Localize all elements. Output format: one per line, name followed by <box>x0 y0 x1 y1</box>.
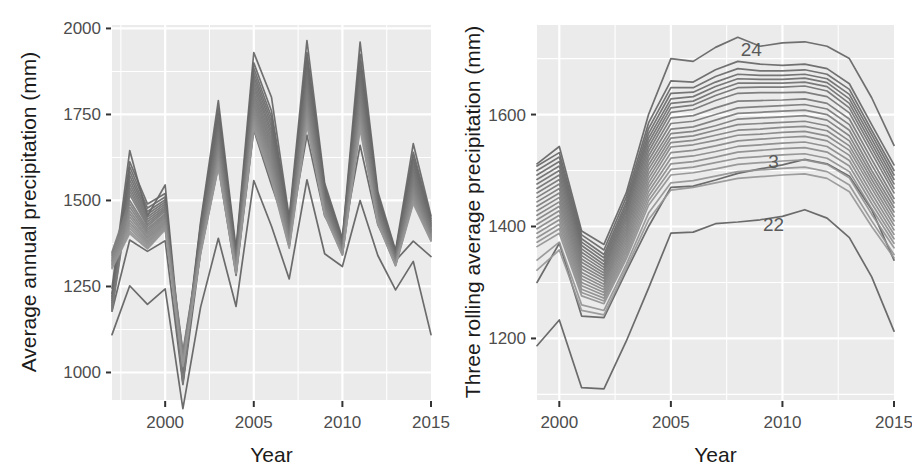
left-panel-content: 100012501500175020002000200520102015Year… <box>17 19 450 466</box>
y-tick-label: 1400 <box>488 217 526 236</box>
y-tick-label: 1250 <box>63 277 101 296</box>
x-tick-label: 2000 <box>540 413 578 432</box>
y-tick-label: 2000 <box>63 19 101 38</box>
x-axis-title: Year <box>250 443 292 466</box>
right-panel-svg: 120014001600200020052010201524322YearThr… <box>456 0 912 474</box>
x-tick-label: 2000 <box>146 413 184 432</box>
x-tick-label: 2005 <box>235 413 273 432</box>
y-tick-label: 1600 <box>488 106 526 125</box>
x-tick-label: 2005 <box>652 413 690 432</box>
right-panel-content: 120014001600200020052010201524322YearThr… <box>461 25 912 466</box>
precipitation-figure: 100012501500175020002000200520102015Year… <box>0 0 912 474</box>
panel-three-rolling-average-precipitation: 120014001600200020052010201524322YearThr… <box>456 0 912 474</box>
series-annotation-22: 22 <box>763 214 784 235</box>
x-tick-label: 2015 <box>875 413 912 432</box>
panel-average-annual-precipitation: 100012501500175020002000200520102015Year… <box>0 0 456 474</box>
left-panel-svg: 100012501500175020002000200520102015Year… <box>0 0 456 474</box>
y-axis-title: Average annual precipitation (mm) <box>17 52 40 373</box>
x-tick-label: 2010 <box>764 413 802 432</box>
y-axis-title: Three rolling average precipitation (mm) <box>461 26 484 398</box>
y-tick-label: 1500 <box>63 191 101 210</box>
x-axis-title: Year <box>694 443 736 466</box>
y-tick-label: 1200 <box>488 329 526 348</box>
x-tick-label: 2010 <box>323 413 361 432</box>
series-annotation-24: 24 <box>741 39 763 60</box>
x-tick-label: 2015 <box>412 413 450 432</box>
y-tick-label: 1000 <box>63 363 101 382</box>
series-annotation-3: 3 <box>768 151 779 172</box>
y-tick-label: 1750 <box>63 105 101 124</box>
